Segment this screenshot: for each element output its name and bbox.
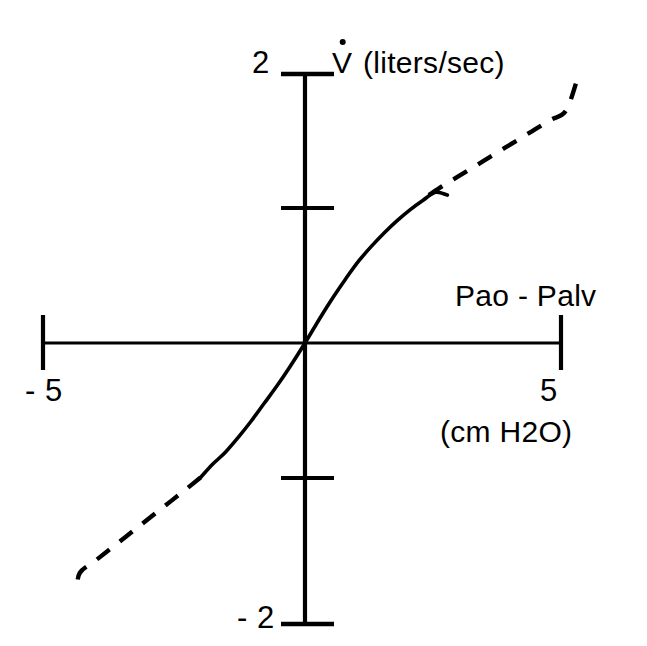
overdot-icon [340, 39, 346, 45]
x-axis-units: (cm H2O) [440, 417, 572, 447]
v-dot-symbol: V [332, 48, 354, 78]
flow-curve-dashed-upper [429, 75, 579, 195]
x-tick-label-left: - 5 [25, 375, 63, 406]
plot-canvas [0, 0, 647, 646]
x-axis-title: Pao - Palv [455, 281, 596, 311]
v-letter: V [332, 46, 352, 79]
y-tick-label-top: 2 [252, 47, 270, 78]
flow-curve-solid [201, 192, 448, 477]
flow-curve-dashed-lower [77, 478, 200, 591]
x-tick-label-right: 5 [540, 375, 558, 406]
y-axis-title: V (liters/sec) [332, 48, 505, 78]
y-tick-label-bottom: - 2 [237, 602, 275, 633]
y-axis-units: (liters/sec) [354, 46, 505, 79]
flow-pressure-figure: V (liters/sec) 2 - 2 - 5 5 Pao - Palv (c… [0, 0, 647, 646]
